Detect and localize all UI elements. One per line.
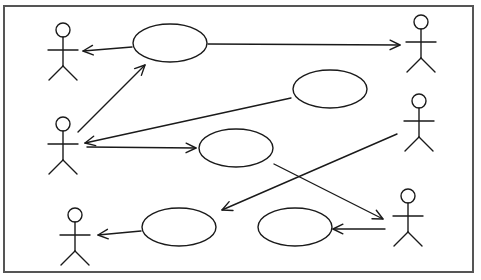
use-case-3[interactable] (199, 129, 273, 167)
use-case-diagram (0, 0, 481, 280)
use-case-5[interactable] (258, 208, 332, 246)
diagram-svg (0, 0, 481, 280)
use-case-1[interactable] (133, 24, 207, 62)
use-case-2[interactable] (293, 70, 367, 108)
use-case-4[interactable] (142, 208, 216, 246)
